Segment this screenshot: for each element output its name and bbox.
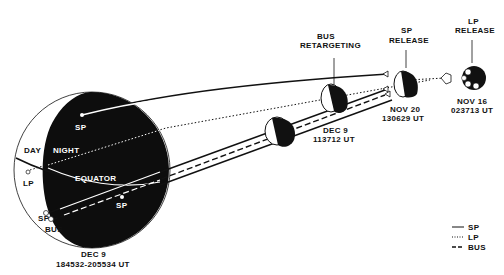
legend: SP LP BUS [452, 223, 486, 252]
sp-point-top [80, 113, 84, 117]
probe-near [265, 117, 295, 147]
lp-release-line2: RELEASE [455, 26, 495, 35]
bus-entry-label: BUS [45, 225, 63, 234]
lp-entry-point [26, 170, 30, 174]
sp-label-top: SP [75, 123, 87, 132]
lp-probe-small [441, 73, 451, 84]
sp-release-date: NOV 20 [390, 105, 421, 114]
lp-release-spacecraft [462, 66, 487, 90]
lp-release-line1: LP [468, 17, 479, 26]
lp-release-date: NOV 16 [457, 97, 488, 106]
dec9-mid-date: DEC 9 [323, 126, 348, 135]
sp-point-bottom [120, 195, 124, 199]
legend-sp-label: SP [468, 223, 480, 232]
sp-release-spacecraft [394, 71, 418, 98]
sp-release-time: 130629 UT [382, 114, 424, 123]
night-label: NIGHT [53, 146, 79, 155]
entry-time: 184532-205534 UT [56, 260, 130, 269]
sp-release-line2: RELEASE [389, 36, 429, 45]
bus-retargeting-line2: RETARGETING [300, 41, 361, 50]
legend-lp-label: LP [468, 233, 479, 242]
legend-bus-label: BUS [468, 243, 486, 252]
day-label: DAY [24, 146, 41, 155]
bus-retargeting-line1: BUS [317, 32, 335, 41]
sp-label-bottom: SP [116, 201, 128, 210]
equator-label: EQUATOR [75, 174, 116, 183]
small-probes [383, 71, 390, 97]
probe-mid [321, 84, 348, 113]
sp-entry-label: SP [38, 214, 50, 223]
sp-release-line1: SP [401, 26, 413, 35]
lp-release-time: 023713 UT [451, 106, 493, 115]
dec9-mid-time: 113712 UT [313, 135, 355, 144]
trajectory-diagram: SP DAY NIGHT EQUATOR LP SP SP BUS DEC 9 … [0, 0, 504, 275]
entry-date: DEC 9 [81, 250, 106, 259]
lp-label: LP [23, 179, 34, 188]
planet [14, 92, 170, 248]
